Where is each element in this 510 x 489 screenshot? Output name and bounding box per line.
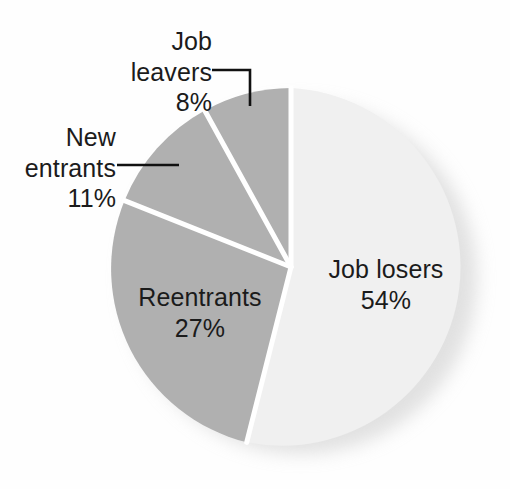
pie-label-reentrants-value: 27% bbox=[120, 313, 280, 344]
pie-label-new-entrants: New entrants 11% bbox=[2, 122, 116, 214]
pie-label-new-entrants-value: 11% bbox=[2, 183, 116, 214]
pie-chart: Job leavers 8% New entrants 11% Reentran… bbox=[0, 0, 510, 489]
pie-label-job-leavers-name-line2: leavers bbox=[92, 57, 212, 88]
pie-label-new-entrants-name-line2: entrants bbox=[2, 153, 116, 184]
pie-label-new-entrants-name-line1: New bbox=[2, 122, 116, 153]
pie-label-job-leavers-value: 8% bbox=[92, 87, 212, 118]
pie-label-reentrants-name: Reentrants bbox=[120, 282, 280, 313]
pie-label-job-losers-name: Job losers bbox=[308, 254, 464, 285]
pie-label-job-losers-value: 54% bbox=[308, 285, 464, 316]
pie-label-job-leavers: Job leavers 8% bbox=[92, 26, 212, 118]
pie-label-job-losers: Job losers 54% bbox=[308, 254, 464, 315]
pie-label-reentrants: Reentrants 27% bbox=[120, 282, 280, 343]
pie-label-job-leavers-name-line1: Job bbox=[92, 26, 212, 57]
pie-chart-canvas bbox=[0, 0, 510, 489]
